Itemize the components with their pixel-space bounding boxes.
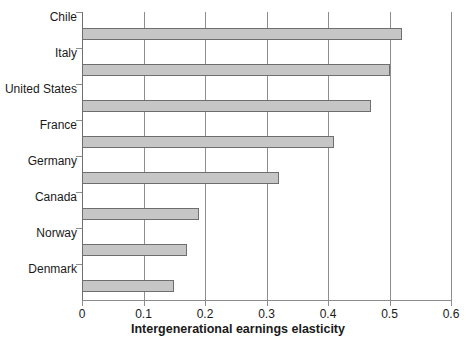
gridline xyxy=(451,12,452,300)
bar xyxy=(82,208,199,220)
y-axis-label: Italy xyxy=(0,46,77,60)
gridline xyxy=(205,12,206,300)
plot-area xyxy=(82,12,451,300)
x-axis-tick-label: 0 xyxy=(79,307,86,321)
gridline xyxy=(144,12,145,300)
x-axis-tick xyxy=(390,301,391,306)
bar xyxy=(82,136,334,148)
bar-chart: ChileItalyUnited StatesFranceGermanyCana… xyxy=(0,0,476,349)
x-axis-tick-label: 0.4 xyxy=(320,307,337,321)
y-axis-label: Chile xyxy=(0,10,77,24)
y-axis-label: Germany xyxy=(0,154,77,168)
gridline xyxy=(82,12,83,300)
x-axis-tick-label: 0.5 xyxy=(381,307,398,321)
gridline xyxy=(267,12,268,300)
y-axis-label: France xyxy=(0,118,77,132)
x-axis-tick xyxy=(82,301,83,306)
y-axis-label: United States xyxy=(0,82,77,96)
bar xyxy=(82,64,390,76)
bar xyxy=(82,28,402,40)
x-axis-tick-label: 0.6 xyxy=(443,307,460,321)
bar xyxy=(82,280,174,292)
x-axis-title: Intergenerational earnings elasticity xyxy=(0,322,476,336)
x-axis-tick xyxy=(267,301,268,306)
x-axis-tick xyxy=(144,301,145,306)
gridline xyxy=(390,12,391,300)
bar xyxy=(82,100,371,112)
x-axis-tick xyxy=(451,301,452,306)
x-axis-tick-label: 0.1 xyxy=(135,307,152,321)
y-axis-label: Denmark xyxy=(0,262,77,276)
bar xyxy=(82,172,279,184)
bar xyxy=(82,244,187,256)
x-axis-tick xyxy=(328,301,329,306)
y-axis-label: Norway xyxy=(0,226,77,240)
x-axis-tick-label: 0.3 xyxy=(258,307,275,321)
x-axis-tick xyxy=(205,301,206,306)
gridline xyxy=(328,12,329,300)
x-axis-tick-label: 0.2 xyxy=(197,307,214,321)
y-axis-label: Canada xyxy=(0,190,77,204)
